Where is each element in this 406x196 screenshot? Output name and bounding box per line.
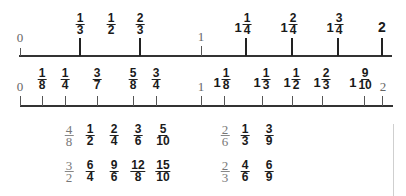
whole-part: 1 bbox=[284, 75, 291, 90]
denominator: 6 bbox=[134, 136, 143, 147]
tick-2-3 bbox=[139, 38, 141, 56]
tick-0 bbox=[20, 48, 21, 56]
label-1-1-4: 114 bbox=[235, 13, 252, 36]
equivalent-fraction: 36 bbox=[134, 124, 143, 147]
tick-2 bbox=[382, 96, 383, 106]
denominator: 2 bbox=[107, 25, 116, 36]
denominator: 4 bbox=[289, 25, 298, 36]
denominator: 2 bbox=[292, 80, 301, 91]
denominator: 4 bbox=[335, 25, 344, 36]
whole-part: 1 bbox=[214, 75, 221, 90]
tick-1 bbox=[201, 46, 202, 56]
whole-part: 1 bbox=[281, 20, 288, 35]
label-2-3: 23 bbox=[136, 13, 145, 36]
label-1-8: 18 bbox=[38, 68, 47, 91]
label-1-1-8: 118 bbox=[214, 68, 231, 91]
denominator: 10 bbox=[155, 136, 170, 147]
denominator: 10 bbox=[155, 172, 170, 183]
label-1-2-4: 124 bbox=[281, 13, 298, 36]
denominator: 4 bbox=[86, 172, 95, 183]
denominator: 3 bbox=[322, 80, 331, 91]
denominator: 6 bbox=[110, 172, 119, 183]
whole-part: 1 bbox=[349, 75, 356, 90]
denominator: 8 bbox=[134, 172, 143, 183]
tick-1-1-8 bbox=[224, 96, 225, 106]
label-1-9-10: 1910 bbox=[349, 68, 373, 91]
denominator: 3 bbox=[136, 25, 145, 36]
label-0: 0 bbox=[17, 79, 24, 95]
key-fraction: 26 bbox=[221, 124, 230, 147]
label-3-7: 37 bbox=[93, 68, 102, 91]
denominator: 4 bbox=[243, 25, 252, 36]
denominator: 4 bbox=[61, 80, 70, 91]
tick-1-1-2 bbox=[292, 96, 293, 106]
whole-part: 1 bbox=[254, 75, 261, 90]
label-1: 1 bbox=[198, 79, 205, 95]
denominator: 6 bbox=[221, 136, 230, 147]
denominator: 8 bbox=[222, 80, 231, 91]
equivalent-fraction: 1510 bbox=[155, 160, 170, 183]
label-3-4: 34 bbox=[152, 68, 161, 91]
tick-1-2-3 bbox=[322, 96, 323, 106]
equivalent-fraction: 24 bbox=[110, 124, 119, 147]
label-1-3-4: 134 bbox=[327, 13, 344, 36]
number-line-2-axis bbox=[20, 105, 393, 107]
denominator: 10 bbox=[357, 80, 372, 91]
tick-1-1-3 bbox=[262, 96, 263, 106]
denominator: 4 bbox=[110, 136, 119, 147]
equivalent-fraction: 69 bbox=[265, 160, 274, 183]
denominator: 8 bbox=[65, 136, 74, 147]
label-1-2: 12 bbox=[107, 13, 116, 36]
label-1-3: 13 bbox=[76, 13, 85, 36]
tick-3-4 bbox=[156, 96, 157, 106]
tick-1-4 bbox=[65, 96, 66, 106]
denominator: 8 bbox=[129, 80, 138, 91]
label-2: 2 bbox=[378, 19, 386, 35]
label-1-1-3: 113 bbox=[254, 68, 271, 91]
equivalent-fraction: 96 bbox=[110, 160, 119, 183]
equivalent-fraction: 12 bbox=[86, 124, 95, 147]
tick-1-3 bbox=[79, 38, 81, 56]
whole-part: 1 bbox=[314, 75, 321, 90]
denominator: 7 bbox=[93, 80, 102, 91]
tick-3-7 bbox=[97, 96, 98, 106]
denominator: 9 bbox=[265, 136, 274, 147]
tick-5-8 bbox=[133, 96, 134, 106]
label-0: 0 bbox=[17, 30, 24, 46]
denominator: 2 bbox=[86, 136, 95, 147]
label-1-4: 14 bbox=[61, 68, 70, 91]
denominator: 4 bbox=[152, 80, 161, 91]
denominator: 8 bbox=[38, 80, 47, 91]
whole-part: 1 bbox=[235, 20, 242, 35]
tick-0 bbox=[20, 96, 21, 106]
page-edge-divider bbox=[393, 124, 394, 196]
denominator: 2 bbox=[65, 172, 74, 183]
key-fraction: 48 bbox=[65, 124, 74, 147]
equivalent-fraction: 13 bbox=[241, 124, 250, 147]
equivalent-fraction: 510 bbox=[155, 124, 170, 147]
denominator: 3 bbox=[262, 80, 271, 91]
label-1-2-3: 123 bbox=[314, 68, 331, 91]
tick-2 bbox=[381, 38, 383, 56]
equivalent-fraction: 64 bbox=[86, 160, 95, 183]
denominator: 3 bbox=[221, 172, 230, 183]
tick-1 bbox=[201, 96, 202, 106]
whole-part: 1 bbox=[327, 20, 334, 35]
tick-1-8 bbox=[42, 96, 43, 106]
tick-1-1-4 bbox=[245, 38, 247, 56]
denominator: 3 bbox=[76, 25, 85, 36]
label-1-1-2: 112 bbox=[284, 68, 301, 91]
key-fraction: 23 bbox=[221, 160, 230, 183]
label-5-8: 58 bbox=[129, 68, 138, 91]
equivalent-fraction: 39 bbox=[265, 124, 274, 147]
key-fraction: 32 bbox=[65, 160, 74, 183]
denominator: 9 bbox=[265, 172, 274, 183]
tick-1-2-4 bbox=[291, 38, 293, 56]
equivalent-fraction: 46 bbox=[241, 160, 250, 183]
label-1: 1 bbox=[198, 29, 205, 45]
denominator: 6 bbox=[241, 172, 250, 183]
equivalent-fraction: 128 bbox=[130, 160, 145, 183]
tick-1-3-4 bbox=[337, 38, 339, 56]
label-2: 2 bbox=[380, 79, 387, 95]
denominator: 3 bbox=[241, 136, 250, 147]
